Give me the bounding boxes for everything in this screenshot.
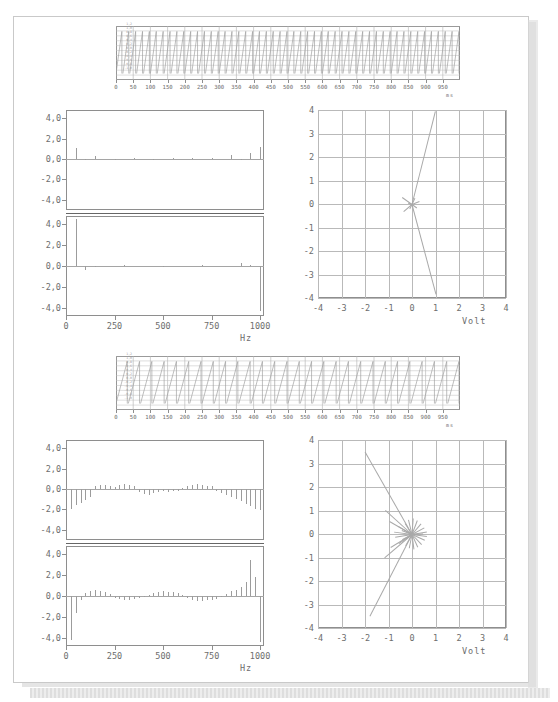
spectrum-bar <box>110 594 111 596</box>
y-tick-label: 0,0 <box>30 591 61 601</box>
grid-line-horizontal <box>318 464 506 465</box>
spectrum-bar <box>153 159 154 160</box>
x-tick <box>115 316 116 320</box>
x-tick-label: 250 <box>97 651 133 661</box>
y-tick-label: -4 <box>296 293 314 303</box>
spectrum-bar <box>221 489 222 493</box>
phasor-chart-top-right: -4-3-2-101234-4-3-2-101234Volt <box>292 104 517 339</box>
grid-line-vertical <box>506 110 507 298</box>
y-tick-label: -3 <box>296 600 314 610</box>
y-tick-label: -4,0 <box>30 303 61 313</box>
x-tick <box>254 80 255 83</box>
spectrum-bar <box>250 265 251 266</box>
x-tick <box>391 80 392 83</box>
panel-separator <box>66 543 264 544</box>
spectrum-bar <box>134 486 135 489</box>
y-tick-label: -2 <box>296 246 314 256</box>
x-tick <box>391 410 392 413</box>
grid-line-horizontal <box>318 228 506 229</box>
y-tick-label: -4,0 <box>30 633 61 643</box>
y-tick-label: -4,0 <box>30 195 61 205</box>
spectrum-bar <box>149 595 150 596</box>
grid-line-horizontal <box>318 181 506 182</box>
x-tick-label: 2 <box>449 303 469 313</box>
spectrum-bar <box>173 592 174 596</box>
spectrum-bar <box>85 489 86 500</box>
y-tick-label: 0 <box>296 199 314 209</box>
spectrum-bar <box>85 159 86 160</box>
spectrum-bar <box>76 596 77 613</box>
spectrum-bar <box>231 591 232 596</box>
spectrum-bar <box>71 596 72 640</box>
panel-separator <box>66 213 264 214</box>
y-tick <box>62 596 66 597</box>
y-tick-label: 2 <box>296 152 314 162</box>
spectrum-bar <box>207 596 208 600</box>
x-tick-label: 1000 <box>242 651 278 661</box>
spectrum-bar <box>76 219 77 266</box>
spectrum-bar <box>250 153 251 159</box>
spectrum-bar <box>197 484 198 489</box>
spectrum-bar <box>163 489 164 491</box>
y-tick-label: 4 <box>296 435 314 445</box>
spectrum-bar <box>168 489 169 492</box>
x-axis-unit-label: ms <box>446 422 454 428</box>
spectrum-bar <box>158 489 159 492</box>
spectrum-bar <box>119 596 120 599</box>
x-tick <box>66 646 67 650</box>
grid-line-horizontal <box>318 298 506 299</box>
spectrum-bar <box>178 593 179 596</box>
spectrum-bar <box>153 489 154 493</box>
x-tick-label: -2 <box>355 633 375 643</box>
x-tick-label: 4 <box>496 303 516 313</box>
spectrum-bar <box>124 596 125 600</box>
grid-line-horizontal <box>318 581 506 582</box>
x-tick-label: 250 <box>97 321 133 331</box>
x-axis-unit-label: ms <box>446 92 454 98</box>
y-tick <box>62 308 66 309</box>
spectrum-bar <box>71 489 72 509</box>
x-tick <box>271 410 272 413</box>
spectrum-bar <box>173 158 174 159</box>
x-tick-label: 1 <box>426 303 446 313</box>
spectrum-bar <box>241 489 242 501</box>
spectrum-bar <box>76 148 77 159</box>
x-tick <box>340 410 341 413</box>
x-tick <box>185 410 186 413</box>
x-tick-label: -1 <box>379 303 399 313</box>
grid-line-horizontal <box>318 605 506 606</box>
x-tick-label: -2 <box>355 303 375 313</box>
y-tick <box>62 489 66 490</box>
x-tick <box>408 80 409 83</box>
spectrum-bar <box>202 485 203 489</box>
x-tick <box>202 80 203 83</box>
x-tick-label: -3 <box>332 633 352 643</box>
x-axis-unit-label: Volt <box>462 646 486 656</box>
zero-baseline <box>66 596 264 597</box>
grid-line-horizontal <box>318 511 506 512</box>
y-tick <box>62 139 66 140</box>
spectrum-bar <box>182 488 183 489</box>
spectrum-bar <box>163 591 164 596</box>
y-tick-label: -2,0 <box>30 612 61 622</box>
page-right-edge <box>528 20 538 688</box>
spectrum-bar <box>212 158 213 159</box>
spectrum-bar <box>119 485 120 489</box>
x-tick <box>185 80 186 83</box>
grid-line-vertical <box>506 440 507 628</box>
y-tick-label: -1 <box>296 223 314 233</box>
spectrum-bar <box>144 489 145 494</box>
spectrum-bar <box>105 592 106 596</box>
spectrum-bar <box>255 577 256 596</box>
x-axis-unit-label: Hz <box>240 333 252 343</box>
x-axis-unit-label: Hz <box>240 663 252 673</box>
spectrum-chart-bottom-left: 4,02,00,0-2,0-4,04,02,00,0-2,0-4,0025050… <box>30 434 280 669</box>
spectrum-bar <box>100 485 101 489</box>
x-tick <box>133 410 134 413</box>
strip-waveform <box>116 26 460 80</box>
spectrum-bar <box>95 590 96 596</box>
spectrum-bar <box>212 486 213 489</box>
x-tick <box>357 410 358 413</box>
spectrum-bar <box>202 265 203 266</box>
y-tick <box>62 575 66 576</box>
